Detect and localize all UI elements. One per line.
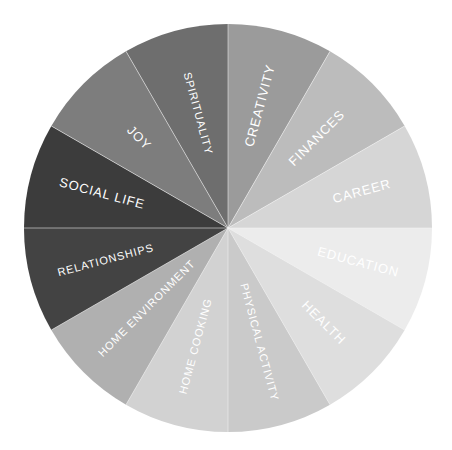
- wheel-chart-svg: CREATIVITYFINANCESCAREEREDUCATIONHEALTHP…: [0, 0, 452, 450]
- life-balance-wheel: CREATIVITYFINANCESCAREEREDUCATIONHEALTHP…: [0, 0, 452, 450]
